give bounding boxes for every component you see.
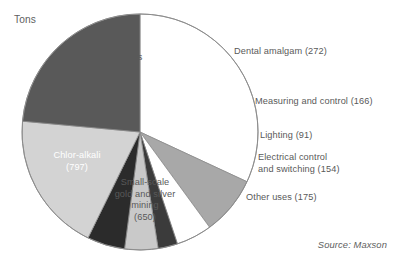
slice-label-small-scale-line1: Small-scale [103,177,187,189]
slice-label-small-scale-line3: mining [103,200,187,212]
slice-label-electrical-control: Electrical control and switching (154) [258,152,340,175]
slice-label-chlor-alkali-name: Chlor-alkali [30,150,124,162]
slice-label-batteries: Batteries (1,081) [86,52,162,75]
slice-label-small-scale-value: (650) [103,212,187,224]
slice-label-chlor-alkali: Chlor-alkali (797) [30,150,124,173]
slice-label-batteries-name: Batteries [86,52,162,64]
slice-label-measuring-and-control: Measuring and control (166) [255,96,373,108]
pie-chart-svg [0,0,401,267]
slice-label-chlor-alkali-value: (797) [30,162,124,174]
source-attribution: Source: Maxson [318,239,387,251]
slice-label-electrical-line2: and switching (154) [258,164,340,176]
units-label: Tons [14,14,36,26]
slice-label-other-uses: Other uses (175) [246,192,317,204]
slice-label-small-scale-mining: Small-scale gold and silver mining (650) [103,177,187,223]
slice-label-small-scale-line2: gold and silver [103,189,187,201]
slice-label-lighting: Lighting (91) [260,130,312,142]
slice-label-electrical-line1: Electrical control [258,152,340,164]
slice-label-dental-amalgam: Dental amalgam (272) [234,46,327,58]
slice-label-batteries-value: (1,081) [86,64,162,76]
pie-chart-figure: Tons Batteries (1,081) Chlor-alkali (797… [0,0,401,267]
